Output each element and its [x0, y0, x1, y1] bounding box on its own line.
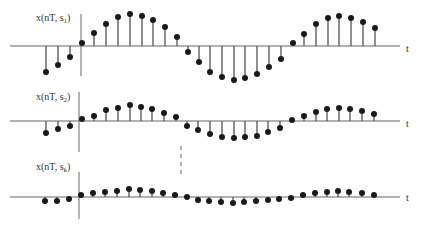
sample-dot	[149, 188, 155, 194]
sample-dot	[276, 196, 282, 202]
sample-dot	[301, 31, 307, 37]
sample-dot	[336, 13, 342, 19]
sample-dot	[346, 189, 352, 195]
sample-dot	[324, 106, 330, 112]
sampled-signal-diagram: x(nT, s1) x(nT, s2) x(nT, sk) t t t	[0, 0, 428, 230]
sample-dot	[161, 110, 167, 116]
sample-dot	[127, 11, 133, 17]
sample-dot	[103, 21, 109, 27]
sample-dot	[313, 109, 319, 115]
sample-dot	[67, 54, 73, 60]
sample-dot	[231, 135, 237, 141]
sample-dot	[139, 13, 145, 19]
sample-dot	[91, 113, 97, 119]
sample-dot	[231, 77, 237, 83]
sample-dot	[91, 30, 97, 36]
sample-dot	[184, 123, 190, 129]
sample-dot	[289, 117, 295, 123]
sample-dot	[185, 49, 191, 55]
sample-dot	[219, 134, 225, 140]
sample-dot	[241, 199, 247, 205]
sample-dot	[348, 15, 354, 21]
sample-dot	[127, 102, 133, 108]
sample-dot	[195, 197, 201, 203]
sample-dot	[184, 194, 190, 200]
xlabel-t-sk: t	[406, 193, 409, 203]
sample-dot	[206, 198, 212, 204]
stem-plots-canvas	[0, 0, 428, 230]
sample-dot	[207, 69, 213, 75]
sample-dot	[265, 197, 271, 203]
sample-dot	[371, 111, 377, 117]
xlabel-t-s1: t	[406, 44, 409, 54]
sample-dot	[160, 190, 166, 196]
xlabel-t-s2: t	[406, 119, 409, 129]
sample-dot	[300, 192, 306, 198]
sample-dot	[359, 108, 365, 114]
sample-dot	[265, 129, 271, 135]
sample-dot	[278, 56, 284, 62]
sample-dot	[149, 106, 155, 112]
ylabel-sk: x(nT, sk)	[36, 162, 70, 174]
sample-dot	[253, 198, 259, 204]
sample-dot	[277, 125, 283, 131]
sample-dot	[196, 59, 202, 65]
sample-dot	[102, 189, 108, 195]
sample-dot	[150, 17, 156, 23]
sample-dot	[207, 131, 213, 137]
sample-dot	[114, 188, 120, 194]
sample-dot	[78, 192, 84, 198]
ylabel-s1: x(nT, s1)	[36, 13, 70, 25]
sample-dot	[242, 75, 248, 81]
sample-dot	[173, 114, 179, 120]
sample-dot	[90, 190, 96, 196]
sample-dot	[371, 192, 377, 198]
sample-dot	[360, 19, 366, 25]
sample-dot	[335, 188, 341, 194]
sample-dot	[42, 198, 48, 204]
sample-dot	[324, 189, 330, 195]
sample-dot	[115, 14, 121, 20]
sample-dot	[313, 21, 319, 27]
sample-dot	[103, 107, 109, 113]
sample-dot	[372, 25, 378, 31]
sample-dot	[219, 74, 225, 80]
sample-dot	[55, 126, 61, 132]
sample-dot	[336, 105, 342, 111]
sample-dot	[301, 113, 307, 119]
sample-dot	[347, 106, 353, 112]
sample-dot	[115, 105, 121, 111]
sample-dot	[79, 40, 85, 46]
sample-dot	[54, 198, 60, 204]
sample-dot	[126, 186, 132, 192]
sample-dot	[174, 34, 180, 40]
sample-dot	[312, 190, 318, 196]
ylabel-s2: x(nT, s2)	[36, 92, 70, 104]
sample-dot	[43, 130, 49, 136]
sample-dot	[325, 15, 331, 21]
sample-dot	[254, 133, 260, 139]
sample-dot	[266, 64, 272, 70]
sample-dot	[195, 127, 201, 133]
sample-dot	[290, 40, 296, 46]
sample-dot	[172, 192, 178, 198]
sample-dot	[242, 134, 248, 140]
sample-dot	[288, 195, 294, 201]
sample-dot	[55, 62, 61, 68]
sample-dot	[66, 196, 72, 202]
sample-dot	[162, 24, 168, 30]
sample-dot	[67, 123, 73, 129]
sample-dot	[79, 116, 85, 122]
sample-dot	[359, 190, 365, 196]
sample-dot	[218, 199, 224, 205]
sample-dot	[230, 200, 236, 206]
sample-dot	[43, 69, 49, 75]
sample-dot	[254, 71, 260, 77]
sample-dot	[138, 104, 144, 110]
sample-dot	[137, 187, 143, 193]
